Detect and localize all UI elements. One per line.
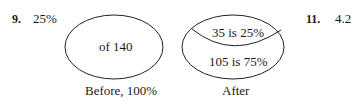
problem-9-number: 9.	[12, 12, 21, 27]
after-caption: After	[222, 83, 249, 99]
problem-11-answer: 4.2	[335, 11, 351, 27]
problem-11-number: 11.	[306, 12, 320, 27]
problem-9-answer: 25%	[33, 11, 57, 27]
before-inner-label: of 140	[99, 39, 133, 55]
after-bottom-label: 105 is 75%	[209, 54, 268, 70]
before-caption: Before, 100%	[85, 83, 157, 99]
after-top-label: 35 is 25%	[212, 25, 264, 41]
